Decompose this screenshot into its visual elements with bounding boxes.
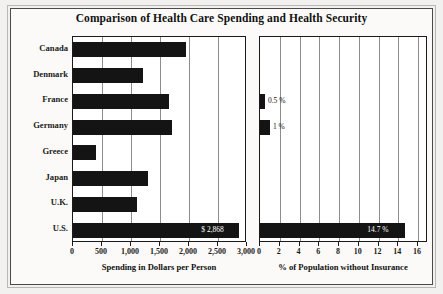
bar-value-label: 0.5 % [268,97,286,105]
axis-tick-label: 4 [297,248,301,256]
bar-germany [260,120,270,135]
chart-figure: Comparison of Health Care Spending and H… [0,0,443,294]
axis-tick [159,242,160,246]
axis-tick-label: 1,000 [121,248,139,256]
category-label-denmark: Denmark [33,70,68,79]
axis-tick [299,242,300,246]
bar-greece [73,145,96,160]
gridline [319,37,320,241]
axis-tick-label: 2,500 [208,248,226,256]
axis-tick-label: 1,500 [150,248,168,256]
gridline [398,37,399,241]
axis-tick [101,242,102,246]
bar-value-label: 1 % [273,123,285,131]
axis-tick-label: 2,000 [179,248,197,256]
axis-tick [259,242,260,246]
category-label-canada: Canada [39,44,68,53]
gridline [379,37,380,241]
axis-tick-label: 0 [70,248,74,256]
bar-canada [73,42,186,57]
spending-axis-title: Spending in Dollars per Person [72,262,246,272]
insurance-axis-title: % of Population without Insurance [255,262,431,272]
axis-tick-label: 0 [257,248,261,256]
axis-tick-label: 2 [277,248,281,256]
axis-tick-label: 16 [413,248,421,256]
gridline [339,37,340,241]
insurance-plot-area: 0.5 %1 %14.7 % [259,36,427,242]
gridline [418,37,419,241]
axis-tick [358,242,359,246]
axis-tick [417,242,418,246]
bar-value-label: $ 2,868 [201,226,224,234]
spending-plot-area: $ 2,868 [72,36,246,242]
category-label-u-s: U.S. [53,224,68,233]
spending-chart-panel: $ 2,868 [72,36,246,242]
axis-tick-label: 500 [95,248,107,256]
axis-tick [378,242,379,246]
gridline [189,37,190,241]
bar-france [73,94,169,109]
bar-value-label: 14.7 % [367,226,388,234]
axis-tick-label: 12 [374,248,382,256]
bar-france [260,94,265,109]
category-axis: CanadaDenmarkFranceGermanyGreeceJapanU.K… [8,36,68,242]
category-label-japan: Japan [46,173,68,182]
insurance-chart-panel: 0.5 %1 %14.7 % [259,36,427,242]
gridline [280,37,281,241]
axis-tick [217,242,218,246]
axis-tick [318,242,319,246]
axis-tick-label: 8 [336,248,340,256]
gridline [300,37,301,241]
axis-tick-label: 10 [354,248,362,256]
axis-tick [338,242,339,246]
gridline [218,37,219,241]
gridline [160,37,161,241]
axis-tick [130,242,131,246]
axis-tick-label: 14 [393,248,401,256]
bar-u-k [73,197,137,212]
gridline [359,37,360,241]
category-label-u-k: U.K. [51,198,68,207]
axis-tick [188,242,189,246]
bar-japan [73,171,148,186]
axis-tick [397,242,398,246]
chart-title: Comparison of Health Care Spending and H… [10,12,433,24]
category-label-greece: Greece [42,147,68,156]
bar-germany [73,120,172,135]
axis-tick-label: 3,000 [237,248,255,256]
category-label-germany: Germany [33,121,68,130]
bar-denmark [73,68,143,83]
axis-tick [72,242,73,246]
axis-tick [279,242,280,246]
category-label-france: France [42,95,68,104]
axis-tick [246,242,247,246]
axis-tick-label: 6 [316,248,320,256]
